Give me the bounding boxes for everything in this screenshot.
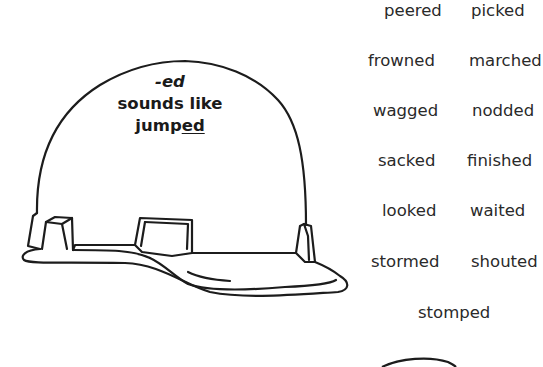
word-card[interactable]: frowned — [368, 51, 435, 70]
word-card[interactable]: peered — [384, 1, 442, 20]
word-card[interactable]: finished — [467, 151, 532, 170]
word-card[interactable]: looked — [382, 201, 436, 220]
example-word-suffix: ed — [182, 116, 205, 135]
example-word-stem: jump — [135, 116, 181, 135]
word-card[interactable]: sacked — [378, 151, 435, 170]
helmet-label: -ed sounds like jumped — [100, 71, 240, 137]
word-card[interactable]: waited — [470, 201, 525, 220]
example-word: jumped — [100, 115, 240, 137]
sounds-like-label: sounds like — [100, 93, 240, 115]
second-helmet-partial-outline — [380, 350, 480, 367]
hard-hat-illustration — [0, 0, 360, 367]
word-card[interactable]: marched — [469, 51, 542, 70]
word-card[interactable]: picked — [471, 1, 525, 20]
word-card[interactable]: wagged — [373, 101, 438, 120]
word-card[interactable]: shouted — [471, 252, 538, 271]
word-card[interactable]: stomped — [418, 303, 490, 322]
suffix-label: -ed — [100, 71, 240, 93]
word-card[interactable]: stormed — [371, 252, 439, 271]
word-card[interactable]: nodded — [472, 101, 534, 120]
